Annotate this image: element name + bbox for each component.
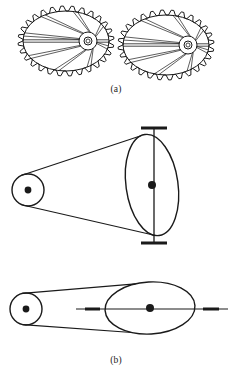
right-elliptical-gear-spoke	[159, 54, 187, 75]
belt-drive-horizontal-shaft-view-large-pulley-center-dot	[146, 304, 154, 312]
right-elliptical-gear-spoke	[154, 54, 185, 74]
left-elliptical-gear-spoke	[41, 17, 83, 34]
left-elliptical-gear-spoke	[31, 46, 81, 58]
left-elliptical-gear-spoke	[54, 50, 85, 70]
belt-drive-vertical-shaft-view-belt-upper	[21, 136, 141, 176]
right-elliptical-gear	[118, 10, 214, 80]
right-elliptical-gear-spoke	[131, 50, 181, 62]
figure-panel-b	[0, 108, 232, 379]
panel-a-caption: (a)	[0, 84, 232, 94]
belt-drive-horizontal-shaft-view-belt-upper	[22, 284, 135, 294]
left-elliptical-gear-spoke	[28, 45, 80, 55]
belt-drive-vertical-shaft-view-large-pulley-center-dot	[148, 181, 156, 189]
belt-drive-horizontal-shaft-view-shaft-bearing-mark-1	[203, 308, 219, 311]
belt-drive-vertical-shaft-view-belt-lower	[23, 205, 153, 235]
right-elliptical-gear-hub-bore	[186, 43, 190, 47]
belt-drive-horizontal-shaft-view-small-pulley-center-dot	[23, 306, 30, 313]
right-elliptical-gear-spoke	[141, 21, 183, 38]
belt-drive-vertical-shaft-view-shaft-bearing-cap-bottom	[141, 242, 167, 245]
panel-b-caption: (b)	[0, 355, 232, 365]
belt-drive-vertical-shaft-view	[12, 127, 185, 245]
left-elliptical-gear-spoke	[59, 50, 87, 71]
left-elliptical-gear-spoke	[87, 49, 92, 67]
belt-drive-vertical-shaft-view-shaft-bearing-cap-top	[141, 127, 167, 130]
left-elliptical-gear-hub-bore	[86, 39, 90, 43]
belt-drive-horizontal-shaft-view	[10, 280, 228, 337]
figure-page: (a) (b)	[0, 0, 232, 379]
belt-drive-horizontal-shaft-view-shaft-bearing-mark-0	[85, 308, 100, 311]
belt-drive-drawing	[0, 108, 232, 379]
left-elliptical-gear	[18, 6, 114, 76]
belt-drive-vertical-shaft-view-small-pulley-center-dot	[25, 187, 32, 194]
right-elliptical-gear-spoke	[128, 49, 180, 59]
right-elliptical-gear-spoke	[187, 53, 192, 71]
